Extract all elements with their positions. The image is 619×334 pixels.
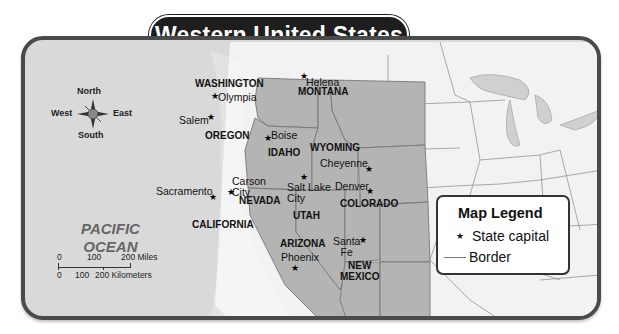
capital-star-icon: ★ <box>209 193 217 202</box>
capital-star-icon: ★ <box>291 264 299 273</box>
capital-star-icon: ★ <box>359 236 367 245</box>
capital-cheyenne: Cheyenne <box>320 158 368 169</box>
capital-santa-fe-line2: Fe <box>333 247 360 258</box>
capital-denver: Denver <box>335 181 369 192</box>
legend-label: Border <box>469 249 511 265</box>
legend-label: State capital <box>472 228 549 244</box>
state-new-mexico: NEW MEXICO <box>340 260 379 282</box>
scale-km-0: 0 <box>57 270 62 280</box>
legend-item-state-capital: ★ State capital <box>456 228 549 244</box>
state-arizona: ARIZONA <box>280 238 326 249</box>
scale-miles-200: 200 Miles <box>121 252 157 262</box>
map-frame: North South West East PACIFIC OCEAN WASH… <box>21 36 601 320</box>
map-legend: Map Legend ★ State capital Border <box>436 195 570 275</box>
capital-star-icon: ★ <box>207 113 215 122</box>
compass-east: East <box>113 108 132 118</box>
scale-km-100: 100 <box>75 270 89 280</box>
capital-boise: Boise <box>271 130 297 141</box>
capital-sacramento: Sacramento <box>156 186 213 197</box>
capital-star-icon: ★ <box>227 188 235 197</box>
capital-salem: Salem <box>179 115 209 126</box>
state-new-mexico-line1: NEW <box>340 260 379 271</box>
capital-carson-city: Carson City <box>232 176 266 198</box>
compass-rose-icon <box>75 97 111 131</box>
capital-salt-lake-city-line2: City <box>287 193 331 204</box>
compass-south: South <box>78 130 104 140</box>
capital-carson-city-line2: City <box>232 187 266 198</box>
scale-miles-100: 100 <box>87 252 101 262</box>
capital-phoenix: Phoenix <box>281 252 319 263</box>
border-line-icon <box>444 257 466 258</box>
capital-star-icon: ★ <box>366 187 374 196</box>
state-washington: WASHINGTON <box>195 78 264 89</box>
scale-km-200: 200 Kilometers <box>95 270 152 280</box>
star-icon: ★ <box>456 231 464 241</box>
state-oregon: OREGON <box>205 130 249 141</box>
capital-star-icon: ★ <box>365 165 373 174</box>
ocean-label: PACIFIC OCEAN <box>81 220 140 256</box>
state-utah: UTAH <box>293 210 320 221</box>
state-new-mexico-line2: MEXICO <box>340 271 379 282</box>
capital-helena: Helena <box>306 77 339 88</box>
legend-title: Map Legend <box>458 205 543 221</box>
state-colorado: COLORADO <box>340 198 398 209</box>
scale-miles-0: 0 <box>57 252 62 262</box>
state-wyoming: WYOMING <box>310 142 360 153</box>
capital-santa-fe: Santa Fe <box>333 236 360 258</box>
state-idaho: IDAHO <box>268 147 300 158</box>
compass-north: North <box>77 86 101 96</box>
capital-salt-lake-city: Salt Lake City <box>287 182 331 204</box>
state-california: CALIFORNIA <box>192 219 254 230</box>
legend-item-border: Border <box>444 249 511 265</box>
ocean-label-line1: PACIFIC <box>81 220 140 238</box>
compass-west: West <box>51 108 72 118</box>
capital-olympia: Olympia <box>218 92 257 103</box>
